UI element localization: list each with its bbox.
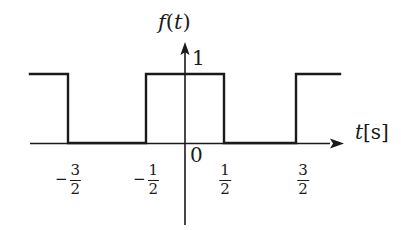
tick-denominator: 2 <box>148 182 160 198</box>
origin-label: 0 <box>190 145 203 165</box>
tick-fraction: 1 2 <box>219 163 231 198</box>
y-axis-title-open-paren: ( <box>166 10 174 34</box>
tick-denominator: 2 <box>297 182 309 198</box>
tick-numerator: 1 <box>219 163 231 179</box>
x-axis-title-unit: [s] <box>363 120 389 144</box>
x-axis-tick-label: − 1 2 <box>133 163 159 198</box>
tick-denominator: 2 <box>70 182 82 198</box>
y-axis-tick-label-one: 1 <box>192 48 205 68</box>
tick-denominator: 2 <box>219 182 231 198</box>
tick-fraction: 1 2 <box>148 163 160 198</box>
x-axis-tick-label: 3 2 <box>295 163 309 198</box>
x-axis-title-variable: t <box>355 120 363 144</box>
square-wave-figure: f(t) 1 0 t[s] − 3 2 − 1 2 1 2 <box>0 0 401 230</box>
tick-fraction: 3 2 <box>70 163 82 198</box>
x-axis-tick-label: 1 2 <box>217 163 231 198</box>
y-axis <box>180 42 189 225</box>
tick-numerator: 3 <box>297 163 309 179</box>
x-axis-title: t[s] <box>355 122 389 142</box>
tick-minus-sign: − <box>133 172 146 188</box>
y-axis-title-close-paren: ) <box>182 10 190 34</box>
y-axis-title: f(t) <box>158 12 191 33</box>
y-axis-title-function: f <box>158 10 166 34</box>
tick-fraction: 3 2 <box>297 163 309 198</box>
tick-numerator: 3 <box>70 163 82 179</box>
tick-numerator: 1 <box>148 163 160 179</box>
tick-minus-sign: − <box>55 172 68 188</box>
x-axis-tick-label: − 3 2 <box>55 163 81 198</box>
x-axis-arrowhead <box>330 139 344 149</box>
